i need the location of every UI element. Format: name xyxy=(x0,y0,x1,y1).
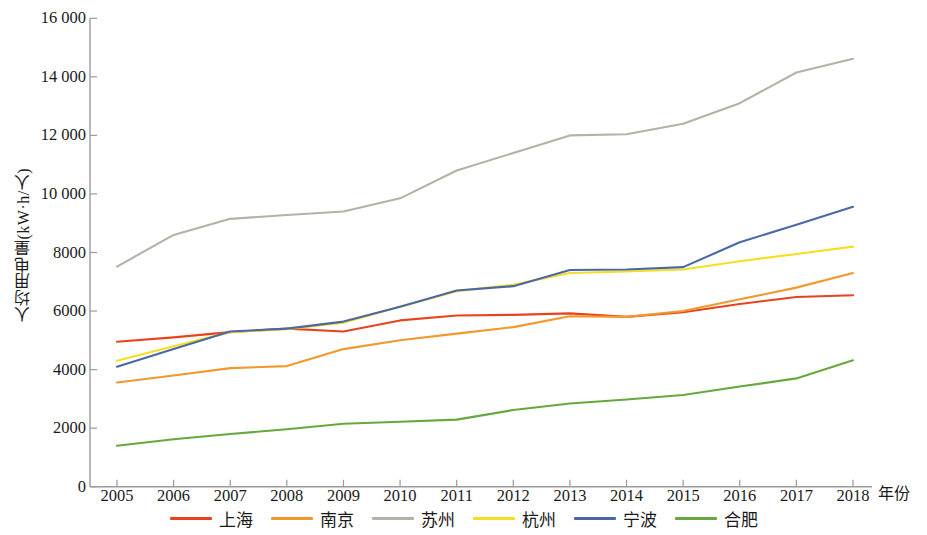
x-axis-tick-label: 2007 xyxy=(214,486,247,506)
x-axis-title: 年份 xyxy=(878,480,910,504)
legend-label: 合肥 xyxy=(724,506,758,531)
series-lines xyxy=(117,59,853,446)
legend-swatch xyxy=(574,517,616,520)
y-axis-tick-label: 10 000 xyxy=(24,184,86,204)
legend-swatch xyxy=(372,517,414,520)
legend-swatch xyxy=(675,517,717,520)
legend-label: 南京 xyxy=(320,506,354,531)
y-axis-tick-label: 0 xyxy=(24,477,86,497)
legend-label: 杭州 xyxy=(522,506,556,531)
legend-swatch xyxy=(473,517,515,520)
legend-item-苏州[interactable]: 苏州 xyxy=(372,506,455,531)
legend-item-杭州[interactable]: 杭州 xyxy=(473,506,556,531)
x-axis-tick-label: 2015 xyxy=(667,486,700,506)
x-axis-tick-label: 2008 xyxy=(270,486,303,506)
line-chart: 人均用电量(kW·h/人) 0200040006000800010 00012 … xyxy=(0,0,927,535)
y-axis-tick-label: 14 000 xyxy=(24,67,86,87)
x-axis-tick-label: 2017 xyxy=(780,486,813,506)
series-line-合肥 xyxy=(117,360,853,445)
legend-label: 宁波 xyxy=(623,506,657,531)
legend-label: 苏州 xyxy=(421,506,455,531)
legend-item-南京[interactable]: 南京 xyxy=(271,506,354,531)
x-axis-tick-label: 2016 xyxy=(723,486,756,506)
chart-legend: 上海南京苏州杭州宁波合肥 xyxy=(0,506,927,531)
y-axis-tick-label: 6000 xyxy=(24,301,86,321)
legend-item-宁波[interactable]: 宁波 xyxy=(574,506,657,531)
x-axis-tick-label: 2014 xyxy=(610,486,643,506)
y-axis-tick-label: 4000 xyxy=(24,360,86,380)
x-axis-tick-label: 2010 xyxy=(384,486,417,506)
series-line-苏州 xyxy=(117,59,853,267)
y-axis-tick-label: 2000 xyxy=(24,418,86,438)
series-line-上海 xyxy=(117,295,853,342)
x-axis-tick-label: 2013 xyxy=(553,486,586,506)
y-axis-tick-label: 12 000 xyxy=(24,125,86,145)
legend-item-合肥[interactable]: 合肥 xyxy=(675,506,758,531)
y-axis-tick-label: 8000 xyxy=(24,243,86,263)
x-axis-tick-label: 2018 xyxy=(837,486,870,506)
x-axis-tick-label: 2006 xyxy=(157,486,190,506)
x-axis-tick-label: 2011 xyxy=(440,486,472,506)
x-axis-tick-label: 2005 xyxy=(101,486,134,506)
legend-item-上海[interactable]: 上海 xyxy=(170,506,253,531)
y-axis-tick-label: 16 000 xyxy=(24,8,86,28)
legend-swatch xyxy=(271,517,313,520)
series-line-宁波 xyxy=(117,207,853,367)
y-axis-tick-labels: 0200040006000800010 00012 00014 00016 00… xyxy=(20,0,86,535)
legend-label: 上海 xyxy=(219,506,253,531)
plot-area xyxy=(0,0,927,535)
x-axis-tick-label: 2012 xyxy=(497,486,530,506)
x-axis-tick-label: 2009 xyxy=(327,486,360,506)
legend-swatch xyxy=(170,517,212,520)
